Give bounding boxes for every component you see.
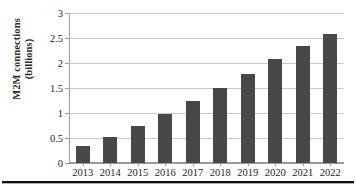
bar-2015: [131, 126, 145, 164]
x-tick-label-2020: 2020: [265, 167, 286, 178]
y-tick-label-0.5: 0.5: [50, 133, 63, 144]
x-tick-mark-2019: [248, 163, 249, 166]
x-tick-mark-2018: [220, 163, 221, 166]
bar-slot-2021: [289, 13, 317, 163]
y-axis-title-line-2: (billions): [23, 39, 35, 80]
x-tick-mark-2017: [193, 163, 194, 166]
bar-slot-2017: [179, 13, 207, 163]
x-tick-mark-2015: [138, 163, 139, 166]
bar-2021: [296, 46, 310, 164]
bar-slot-2019: [234, 13, 262, 163]
y-axis-title: M2M connections (billions): [6, 0, 40, 129]
y-tick-label-1.5: 1.5: [50, 83, 63, 94]
bar-slot-2016: [152, 13, 180, 163]
x-tick-label-2013: 2013: [72, 167, 93, 178]
bar-2013: [76, 146, 90, 164]
x-tick-label-2015: 2015: [127, 167, 148, 178]
y-tick-label-2.5: 2.5: [50, 33, 63, 44]
x-tick-label-2014: 2014: [100, 167, 121, 178]
y-tick-label-3: 3: [58, 8, 63, 19]
y-tick-label-2: 2: [58, 58, 63, 69]
bar-2020: [268, 59, 282, 163]
y-tick-mark-0: [65, 163, 69, 164]
x-tick-label-2018: 2018: [210, 167, 231, 178]
x-tick-mark-2016: [165, 163, 166, 166]
bar-2017: [186, 101, 200, 163]
bar-slot-2013: [69, 13, 97, 163]
bar-slot-2015: [124, 13, 152, 163]
bar-2018: [213, 88, 227, 164]
bar-slot-2018: [207, 13, 235, 163]
x-tick-label-2016: 2016: [155, 167, 176, 178]
bar-2019: [241, 74, 255, 164]
bar-2022: [323, 34, 337, 164]
x-tick-label-2019: 2019: [237, 167, 258, 178]
plot-area: 00.511.522.53: [69, 13, 344, 163]
bar-slot-2022: [317, 13, 345, 163]
x-tick-label-2017: 2017: [182, 167, 203, 178]
x-tick-mark-2020: [275, 163, 276, 166]
y-axis-title-line-1: M2M connections: [11, 18, 23, 100]
x-tick-mark-2022: [330, 163, 331, 166]
bar-slot-2014: [97, 13, 125, 163]
x-tick-mark-2014: [110, 163, 111, 166]
m2m-connections-bar-chart: M2M connections (billions) 00.511.522.53…: [0, 0, 356, 194]
x-tick-label-2021: 2021: [292, 167, 313, 178]
bar-2014: [103, 137, 117, 164]
x-tick-mark-2013: [83, 163, 84, 166]
bar-slot-2020: [262, 13, 290, 163]
x-tick-label-2022: 2022: [320, 167, 341, 178]
y-tick-label-0: 0: [58, 158, 63, 169]
y-tick-label-1: 1: [58, 108, 63, 119]
x-axis-labels: 2013201420152016201720182019202020212022: [69, 166, 344, 182]
x-tick-mark-2021: [303, 163, 304, 166]
page-bottom-rule-shadow: [2, 183, 354, 184]
bar-2016: [158, 114, 172, 164]
bars-layer: [69, 13, 344, 163]
